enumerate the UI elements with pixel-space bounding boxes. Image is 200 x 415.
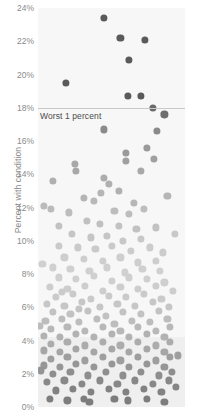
- data-point: [128, 317, 135, 324]
- scatter-chart: Percent with condition 0%2%4%6%8%10%12%1…: [0, 0, 200, 415]
- data-point: [158, 295, 165, 302]
- data-point: [81, 327, 88, 334]
- data-point: [40, 202, 47, 209]
- data-point: [152, 282, 159, 289]
- data-point: [126, 56, 133, 63]
- y-axis-ticks: 0%2%4%6%8%10%12%14%16%18%20%22%24%: [0, 0, 34, 415]
- data-point: [131, 302, 138, 309]
- data-point: [108, 277, 115, 284]
- data-point: [58, 315, 65, 322]
- data-point: [156, 267, 163, 274]
- data-point: [80, 255, 87, 262]
- data-point: [152, 327, 159, 334]
- data-point: [39, 260, 46, 267]
- data-point: [48, 206, 55, 213]
- data-point: [115, 222, 122, 229]
- data-point: [96, 221, 103, 228]
- data-point: [55, 222, 62, 229]
- data-point: [103, 264, 110, 271]
- data-point: [76, 305, 83, 312]
- data-point: [115, 187, 122, 194]
- data-point: [68, 231, 75, 238]
- data-point: [83, 217, 90, 224]
- data-point: [152, 224, 159, 231]
- data-point: [165, 304, 172, 311]
- data-point: [171, 231, 178, 238]
- data-point: [117, 327, 124, 334]
- data-point: [55, 242, 62, 249]
- data-point: [90, 197, 97, 204]
- data-point: [126, 211, 133, 218]
- data-point: [137, 93, 144, 100]
- data-point: [58, 289, 65, 296]
- data-point: [133, 226, 140, 233]
- data-point: [87, 234, 94, 241]
- data-point: [102, 312, 109, 319]
- plot-area: Worst 1 percent: [38, 8, 185, 407]
- y-axis-tick-label: 22%: [4, 37, 34, 46]
- y-axis-tick-label: 6%: [4, 303, 34, 312]
- data-point: [120, 309, 127, 316]
- data-point: [111, 320, 118, 327]
- y-axis-tick-label: 4%: [4, 336, 34, 345]
- y-axis-tick-label: 2%: [4, 370, 34, 379]
- data-point: [117, 254, 124, 261]
- y-axis-tick-label: 12%: [4, 203, 34, 212]
- data-point: [43, 300, 50, 307]
- data-point: [74, 244, 81, 251]
- data-point: [140, 290, 147, 297]
- data-point: [170, 287, 177, 294]
- data-point: [153, 127, 160, 134]
- data-point: [99, 324, 106, 331]
- data-point: [61, 302, 68, 309]
- y-axis-tick-label: 16%: [4, 137, 34, 146]
- data-point: [67, 310, 74, 317]
- data-point: [49, 264, 56, 271]
- y-axis-tick-label: 8%: [4, 270, 34, 279]
- data-point: [137, 167, 144, 174]
- y-axis-tick-label: 10%: [4, 237, 34, 246]
- data-point: [167, 324, 174, 331]
- data-point: [134, 324, 141, 331]
- data-point: [49, 309, 56, 316]
- data-point: [124, 93, 131, 100]
- data-point: [161, 111, 168, 118]
- y-axis-tick-label: 20%: [4, 70, 34, 79]
- data-point: [161, 279, 168, 286]
- data-point: [143, 144, 150, 151]
- data-point: [61, 254, 68, 261]
- y-axis-tick-label: 0%: [4, 403, 34, 412]
- data-point: [123, 294, 130, 301]
- data-point: [149, 299, 156, 306]
- data-point: [164, 192, 171, 199]
- data-point: [101, 126, 108, 133]
- data-point: [146, 319, 153, 326]
- y-axis-tick-label: 24%: [4, 4, 34, 13]
- data-point: [139, 265, 146, 272]
- data-point: [87, 295, 94, 302]
- data-point: [98, 189, 105, 196]
- data-point: [90, 272, 97, 279]
- data-point: [137, 310, 144, 317]
- data-point: [93, 315, 100, 322]
- data-point: [48, 325, 55, 332]
- data-point: [105, 181, 112, 188]
- data-point: [130, 199, 137, 206]
- data-point: [137, 235, 144, 242]
- data-point: [123, 157, 130, 164]
- data-point: [164, 315, 171, 322]
- data-point: [42, 317, 49, 324]
- data-point: [49, 177, 56, 184]
- y-axis-tick-label: 14%: [4, 170, 34, 179]
- data-point: [84, 307, 91, 314]
- data-point: [127, 247, 134, 254]
- data-point: [67, 265, 74, 272]
- data-point: [70, 290, 77, 297]
- data-point: [152, 257, 159, 264]
- data-point: [142, 36, 149, 43]
- data-point: [103, 232, 110, 239]
- data-point: [143, 275, 150, 282]
- data-point: [114, 300, 121, 307]
- data-point: [140, 206, 147, 213]
- y-axis-tick-label: 18%: [4, 104, 34, 113]
